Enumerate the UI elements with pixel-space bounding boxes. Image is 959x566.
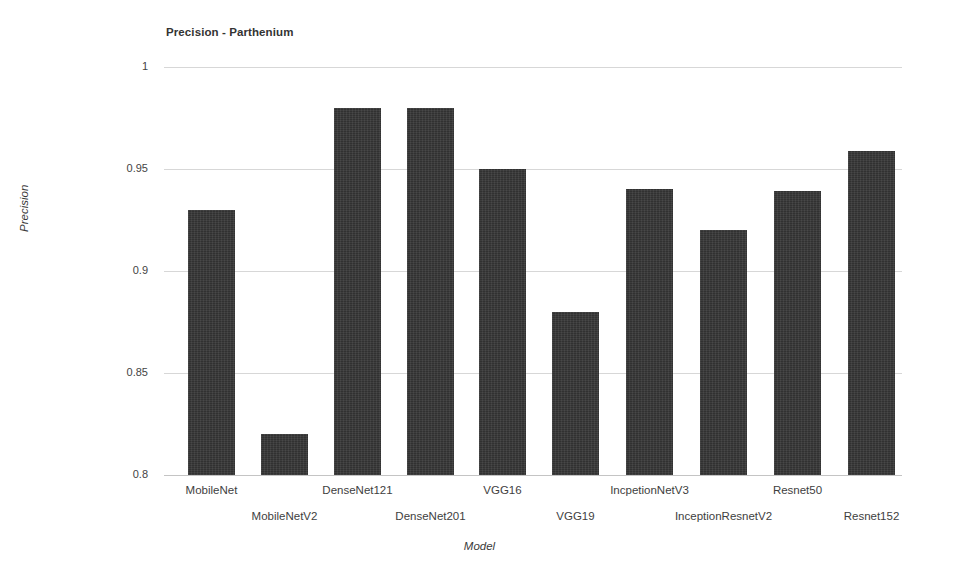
y-axis-tick-label: 0.95: [88, 163, 148, 174]
y-axis-tick-label: 1: [88, 61, 148, 72]
y-axis-tick-labels: 10.950.90.850.8: [86, 67, 148, 475]
bar[interactable]: [700, 230, 747, 475]
bar[interactable]: [334, 108, 381, 475]
y-axis-tick-label: 0.85: [88, 367, 148, 378]
chart-title: Precision - Parthenium: [166, 26, 293, 38]
y-axis-title: Precision: [18, 185, 30, 232]
bar[interactable]: [479, 169, 526, 475]
y-axis-tick-label: 0.9: [88, 265, 148, 276]
bar[interactable]: [188, 210, 235, 475]
gridline: [164, 475, 902, 476]
x-axis-tick-label: Resnet152: [782, 511, 959, 523]
bar[interactable]: [774, 191, 821, 475]
plot-area: [164, 67, 902, 475]
bar[interactable]: [626, 189, 673, 475]
x-axis-tick-label: Resnet50: [708, 485, 888, 497]
bar[interactable]: [407, 108, 454, 475]
x-axis-title: Model: [0, 540, 959, 552]
gridline: [164, 169, 902, 170]
bar[interactable]: [848, 151, 895, 475]
precision-bar-chart: Precision - Parthenium 10.950.90.850.8 P…: [0, 0, 959, 566]
y-axis-tick-label: 0.8: [88, 469, 148, 480]
gridline: [164, 67, 902, 68]
bar[interactable]: [552, 312, 599, 475]
bar[interactable]: [261, 434, 308, 475]
